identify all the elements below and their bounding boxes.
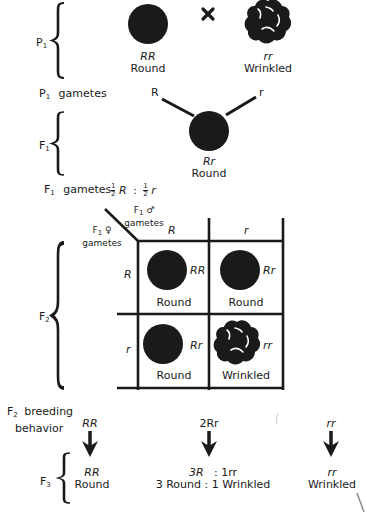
f1-brace	[52, 112, 64, 175]
round-pea-cell-Rr-top	[220, 250, 260, 290]
cell-rr-genotype: rr	[263, 340, 272, 352]
row-header-R: R	[124, 269, 132, 281]
gamete-line-left	[162, 99, 194, 116]
round-pea-cell-RR	[147, 250, 187, 290]
p1-gamete-right: r	[259, 87, 264, 99]
cross-symbol	[203, 9, 213, 19]
p1-left-parent: RR Round	[118, 51, 178, 75]
p1-brace	[52, 3, 64, 78]
cell-rr-phenotype: Wrinkled	[213, 370, 279, 382]
f2-breeding-rr: rr	[311, 418, 351, 430]
f1-offspring: Rr Round	[179, 156, 239, 180]
cell-Rr-bottom-genotype: Rr	[190, 340, 202, 352]
column-header-r: r	[244, 225, 249, 237]
cell-Rr-top-genotype: Rr	[263, 265, 275, 277]
label-p1-gametes: P1 gametes	[39, 88, 107, 103]
wrinkled-pea-p1	[245, 0, 292, 43]
p1-right-parent: rr Wrinkled	[236, 51, 300, 75]
round-pea-p1	[128, 4, 168, 44]
f2-breeding-Rr: 2Rr	[189, 418, 229, 430]
f2-brace	[52, 243, 64, 388]
column-header-R: R	[168, 225, 176, 237]
f2-breeding-RR: RR	[70, 418, 110, 430]
label-f1-gametes: F1 gametes	[44, 184, 111, 199]
diagram-graphics	[0, 0, 367, 517]
label-f1: F1	[39, 140, 50, 155]
arrow-down-icon-rr	[323, 431, 339, 457]
female-gametes-header: F1 ♀ gametes	[82, 225, 122, 248]
male-gametes-header: F1 ♂ gametes	[124, 205, 164, 228]
round-pea-cell-Rr-bottom	[143, 324, 183, 364]
cell-Rr-bottom-phenotype: Round	[142, 370, 206, 382]
label-p1: P1	[36, 37, 47, 52]
f3-result-RR: RR Round	[62, 467, 122, 491]
arrow-down-icon-RR	[82, 431, 98, 457]
f3-result-Rr: 3R : 1rr 3 Round : 1 Wrinkled	[150, 467, 276, 491]
label-f2-breeding: F2 breeding behavior	[7, 406, 73, 435]
cell-RR-phenotype: Round	[142, 297, 206, 309]
wrinkled-pea-cell-rr	[214, 320, 261, 364]
cell-RR-genotype: RR	[190, 265, 205, 277]
cell-Rr-top-phenotype: Round	[213, 297, 279, 309]
label-f2: F2	[39, 311, 50, 326]
round-pea-f1	[189, 111, 229, 151]
f1-gamete-ratio: 12 R : 12 r	[111, 183, 156, 198]
p1-gamete-left: R	[151, 87, 159, 99]
f3-result-rr: rr Wrinkled	[302, 467, 362, 491]
label-f3: F3	[40, 476, 51, 491]
row-header-r: r	[126, 344, 131, 356]
gamete-line-right	[226, 97, 256, 115]
arrow-down-icon-Rr	[201, 431, 217, 457]
